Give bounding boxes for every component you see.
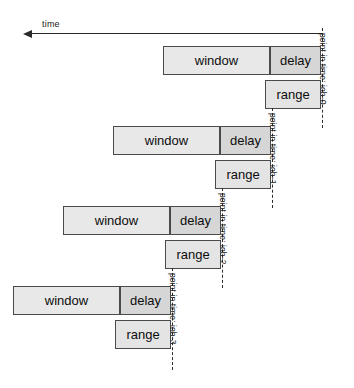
timeline-diagram: time point in time: job-0windowdelayrang…	[0, 0, 354, 388]
delay-bar-label: delay	[130, 294, 161, 307]
range-bar-job-1: range	[215, 160, 271, 189]
range-bar-label: range	[226, 168, 259, 181]
window-bar-job-0: window	[163, 46, 270, 75]
window-bar-job-1: window	[113, 126, 220, 155]
range-bar-label: range	[176, 248, 209, 261]
window-bar-label: window	[95, 214, 138, 227]
range-bar-job-2: range	[165, 240, 221, 269]
range-bar-label: range	[126, 328, 159, 341]
delay-bar-job-0: delay	[270, 46, 321, 75]
range-bar-job-3: range	[115, 320, 171, 349]
window-bar-label: window	[195, 54, 238, 67]
window-bar-job-3: window	[13, 286, 120, 315]
time-arrow-icon	[23, 30, 32, 38]
delay-bar-job-1: delay	[220, 126, 271, 155]
window-bar-job-2: window	[63, 206, 170, 235]
delay-bar-job-2: delay	[170, 206, 221, 235]
range-bar-label: range	[276, 88, 309, 101]
time-axis-line	[32, 33, 322, 34]
time-axis-label: time	[42, 19, 60, 29]
delay-bar-job-3: delay	[120, 286, 171, 315]
window-bar-label: window	[45, 294, 88, 307]
delay-bar-label: delay	[280, 54, 311, 67]
range-bar-job-0: range	[265, 80, 321, 109]
delay-bar-label: delay	[180, 214, 211, 227]
window-bar-label: window	[145, 134, 188, 147]
delay-bar-label: delay	[230, 134, 261, 147]
